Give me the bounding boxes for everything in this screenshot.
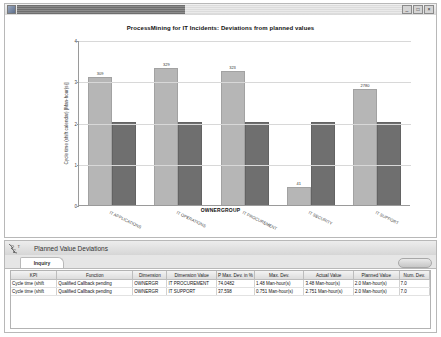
table-cell-max-dev: 0.751 Man-hour(s): [254, 288, 303, 296]
table-column-header[interactable]: Max. Dev.: [254, 271, 303, 280]
window-controls[interactable]: _ □ ×: [402, 5, 434, 14]
table-column-header[interactable]: Planned Value: [353, 271, 399, 280]
y-tick-label: 2: [74, 121, 77, 126]
bar-actual[interactable]: 323: [221, 71, 245, 205]
titlebar-texture-left: [17, 5, 185, 14]
table-header: KPIFunctionDimensionDimension ValueP Max…: [11, 271, 430, 280]
table-row[interactable]: Cycle time (shiftQualified Callback pend…: [11, 280, 430, 288]
table-column-header[interactable]: KPI: [11, 271, 57, 280]
table-cell-dimension-value: IT SUPPORT: [167, 288, 216, 296]
chart-panel: ProcessMining for IT Incidents: Deviatio…: [5, 15, 436, 237]
close-button[interactable]: ×: [424, 5, 434, 14]
panel-title: Planned Value Deviations: [34, 245, 108, 252]
panel-header: T Planned Value Deviations: [5, 241, 436, 256]
chart-window: _ □ × ProcessMining for IT Incidents: De…: [4, 3, 437, 238]
chart-title: ProcessMining for IT Incidents: Deviatio…: [5, 25, 436, 31]
bar-value-label: 323: [229, 65, 236, 70]
application-window: _ □ × ProcessMining for IT Incidents: De…: [0, 0, 441, 337]
plot-area: 309329323412780 01234: [78, 41, 410, 206]
table-header-row: KPIFunctionDimensionDimension ValueP Max…: [11, 271, 430, 280]
table-cell-num-dev: 7.0: [399, 288, 430, 296]
table-cell-num-dev: 7.0: [399, 280, 430, 288]
bar-planned[interactable]: [112, 122, 136, 206]
tab-strip: Inquiry: [5, 255, 436, 269]
grid-line: [79, 124, 411, 125]
deviations-table: KPIFunctionDimensionDimension ValueP Max…: [11, 271, 430, 296]
table-cell-function: Qualified Callback pending: [57, 280, 133, 288]
grid-line: [79, 41, 411, 42]
grid-line: [79, 82, 411, 83]
table-cell-dimension: OWNERGR: [133, 280, 167, 288]
table-cell-p-max-dev: 74.0482: [216, 280, 254, 288]
table-column-header[interactable]: Num. Dev.: [399, 271, 430, 280]
bar-planned[interactable]: [311, 122, 335, 206]
bar-value-label: 309: [97, 71, 104, 76]
x-axis-title: OWNERGROUP: [5, 207, 436, 213]
bird-logo-icon: T: [8, 243, 24, 254]
table-row[interactable]: Cycle time (shiftQualified Callback pend…: [11, 288, 430, 296]
grid-line: [79, 165, 411, 166]
table-column-header[interactable]: P Max. Dev. in %: [216, 271, 254, 280]
bar-planned[interactable]: [377, 122, 401, 206]
x-tick-label: IT PROCUREMENT: [242, 210, 278, 231]
table-cell-planned-value: 2.0 Man-hour(s): [353, 288, 399, 296]
table-cell-actual-value: 3.48 Man-hour(s): [304, 280, 353, 288]
table-column-header[interactable]: Dimension: [133, 271, 167, 280]
table-cell-kpi: Cycle time (shift: [11, 288, 57, 296]
bar-actual[interactable]: 2780: [353, 89, 377, 205]
app-icon: [7, 5, 16, 14]
table-column-header[interactable]: Function: [57, 271, 133, 280]
minimize-button[interactable]: _: [402, 5, 412, 14]
table-cell-dimension-value: IT PROCUREMENT: [167, 280, 216, 288]
titlebar-texture-right: [185, 5, 402, 14]
y-axis-label: Cycle time (shift calendar) [Man-hour(s)…: [62, 41, 72, 206]
table-cell-kpi: Cycle time (shift: [11, 280, 57, 288]
bar-planned[interactable]: [245, 122, 269, 206]
deviations-table-container[interactable]: KPIFunctionDimensionDimension ValueP Max…: [10, 270, 431, 329]
tab-inquiry[interactable]: Inquiry: [20, 257, 64, 268]
svg-text:T: T: [18, 243, 21, 248]
bar-value-label: 2780: [360, 83, 369, 88]
table-column-header[interactable]: Actual Value: [304, 271, 353, 280]
table-cell-dimension: OWNERGR: [133, 288, 167, 296]
maximize-button[interactable]: □: [413, 5, 423, 14]
bar-actual[interactable]: 41: [287, 187, 311, 205]
y-tick-label: 4: [74, 39, 77, 44]
bar-value-label: 329: [163, 62, 170, 67]
planned-value-deviations-panel: T Planned Value Deviations Inquiry KPIFu…: [4, 240, 437, 333]
table-cell-function: Qualified Callback pending: [57, 288, 133, 296]
table-cell-max-dev: 1.48 Man-hour(s): [254, 280, 303, 288]
bar-value-label: 41: [296, 181, 300, 186]
panel-action-button[interactable]: [398, 258, 432, 268]
table-body: Cycle time (shiftQualified Callback pend…: [11, 280, 430, 296]
bar-actual[interactable]: 309: [88, 77, 112, 205]
table-cell-planned-value: 2.0 Man-hour(s): [353, 280, 399, 288]
table-column-header[interactable]: Dimension Value: [167, 271, 216, 280]
table-cell-p-max-dev: 37.598: [216, 288, 254, 296]
y-tick-label: 3: [74, 80, 77, 85]
y-tick-label: 1: [74, 162, 77, 167]
table-cell-actual-value: 2.751 Man-hour(s): [304, 288, 353, 296]
y-axis-label-text: Cycle time (shift calendar) [Man-hour(s)…: [65, 83, 70, 165]
bar-planned[interactable]: [178, 122, 202, 206]
bar-actual[interactable]: 329: [154, 68, 178, 205]
